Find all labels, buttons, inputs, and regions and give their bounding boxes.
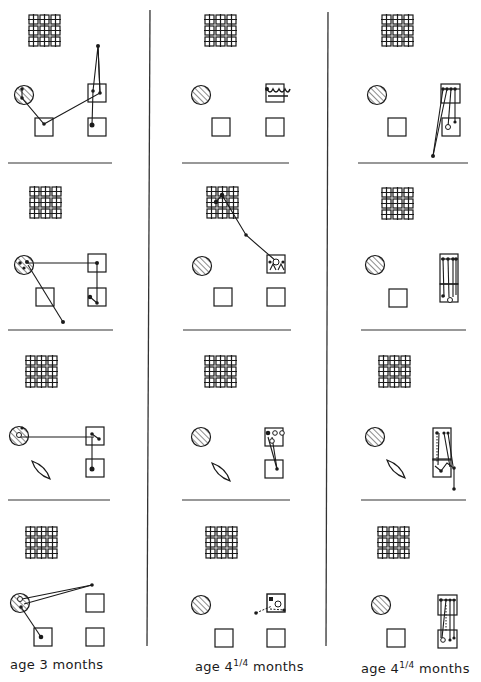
scanpath-figure [0, 0, 481, 682]
panel-col3-row4 [372, 526, 458, 648]
panel-col2-row2 [193, 186, 286, 306]
caption-col2-fraction: 1/4 [233, 658, 248, 668]
caption-col3-fraction: 1/4 [399, 660, 414, 670]
panel-col2-row1 [192, 14, 291, 136]
caption-col3: age 41/4 months [361, 660, 470, 676]
panel-col1-row1 [15, 14, 107, 136]
column-divider-1 [147, 10, 150, 646]
column-divider-2 [326, 12, 328, 646]
panel-col1-row3 [10, 355, 105, 479]
panel-col2-row3 [192, 355, 285, 481]
panel-col3-row2 [366, 187, 459, 307]
panel-col1-row2 [15, 186, 107, 324]
panel-col3-row1 [368, 14, 461, 158]
panel-col2-row4 [192, 526, 286, 647]
caption-col2: age 41/4 months [195, 658, 304, 674]
caption-col1: age 3 months [10, 657, 103, 672]
panel-col1-row4 [11, 526, 105, 646]
panel-col3-row3 [366, 355, 456, 491]
